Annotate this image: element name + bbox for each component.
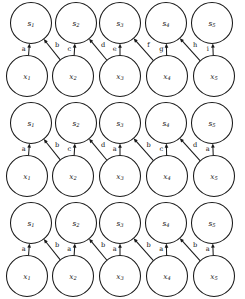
edge-x2-to-s2-label: c — [67, 145, 71, 153]
edge-x5-to-s5-label: a — [206, 145, 210, 153]
edge-x4-to-s3-label: b — [146, 241, 150, 249]
edge-x4-to-s4-label: g — [159, 45, 164, 53]
edge-x3-to-s2-label: b — [101, 241, 105, 249]
edge-x4-to-s4-arrowhead — [165, 244, 169, 248]
edge-x5-to-s5-label: i — [207, 45, 209, 53]
edge-x5-to-s5-arrowhead — [211, 143, 215, 147]
edge-x1-to-s1-arrowhead — [27, 43, 31, 47]
edge-x4-to-s4-arrowhead — [165, 144, 169, 148]
edge-x5-to-s5-arrowhead — [211, 243, 215, 247]
edge-x1-to-s1-label: a — [22, 145, 26, 153]
edge-x5-to-s5-arrowhead — [211, 43, 215, 47]
edge-x1-to-s1-arrowhead — [27, 143, 31, 147]
edge-x4-to-s4-label: c — [159, 145, 163, 153]
edge-x3-to-s3-arrowhead — [118, 144, 122, 148]
edge-x1-to-s1-line — [29, 247, 30, 256]
edge-x1-to-s1-line — [29, 147, 30, 156]
row-2-four-symbols: abcdabcdas1s2s3s4s5x1x2x3x4x5 — [0, 100, 245, 199]
edge-x2-to-s2-arrowhead — [73, 143, 77, 147]
edge-x4-to-s4-label: a — [159, 245, 163, 253]
edge-x1-to-s1-label: a — [22, 45, 26, 53]
edge-x1-to-s1-arrowhead — [27, 243, 31, 247]
edge-x2-to-s1-label: b — [55, 241, 59, 249]
edge-x4-to-s3-label: b — [146, 141, 150, 149]
edge-x5-to-s5-label: a — [206, 245, 210, 253]
edge-x3-to-s3-arrowhead — [118, 44, 122, 48]
row-3-two-symbols: ababababas1s2s3s4s5x1x2x3x4x5 — [0, 200, 245, 299]
row-1-all-distinct: abcdefghis1s2s3s4s5x1x2x3x4x5 — [0, 0, 245, 99]
edge-x2-to-s2-label: c — [67, 45, 71, 53]
edge-x4-to-s3-line — [136, 241, 154, 261]
edge-x3-to-s2-label: d — [101, 141, 106, 149]
edge-x2-to-s2-label: a — [67, 245, 71, 253]
edge-x4-to-s3-line — [136, 41, 154, 61]
edge-x4-to-s3-line — [136, 141, 154, 161]
edge-x2-to-s1-label: b — [55, 141, 59, 149]
edge-x3-to-s2-label: d — [101, 41, 106, 49]
edge-x3-to-s3-label: a — [113, 145, 117, 153]
edge-x1-to-s1-line — [29, 47, 30, 56]
edge-x3-to-s3-arrowhead — [118, 244, 122, 248]
edge-x5-to-s4-label: d — [193, 141, 198, 149]
bipartite-graph-figure: abcdefghis1s2s3s4s5x1x2x3x4x5abcdabcdas1… — [0, 0, 245, 299]
edge-x2-to-s2-arrowhead — [73, 243, 77, 247]
edge-x3-to-s3-label: a — [113, 245, 117, 253]
edge-x1-to-s1-label: a — [22, 245, 26, 253]
edge-x5-to-s4-line — [182, 141, 200, 161]
edge-x5-to-s4-line — [182, 241, 200, 261]
edge-x5-to-s4-label: h — [193, 41, 198, 49]
edge-x4-to-s3-label: f — [147, 41, 150, 49]
edge-x2-to-s1-label: b — [55, 41, 59, 49]
edge-x5-to-s4-line — [182, 41, 200, 61]
edge-x3-to-s3-label: e — [113, 45, 117, 53]
edge-x5-to-s4-label: b — [193, 241, 197, 249]
edge-x4-to-s4-arrowhead — [165, 44, 169, 48]
edge-x2-to-s2-arrowhead — [73, 43, 77, 47]
